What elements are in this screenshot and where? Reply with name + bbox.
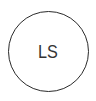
- avatar-initials: LS: [39, 43, 59, 61]
- avatar: LS: [8, 11, 89, 92]
